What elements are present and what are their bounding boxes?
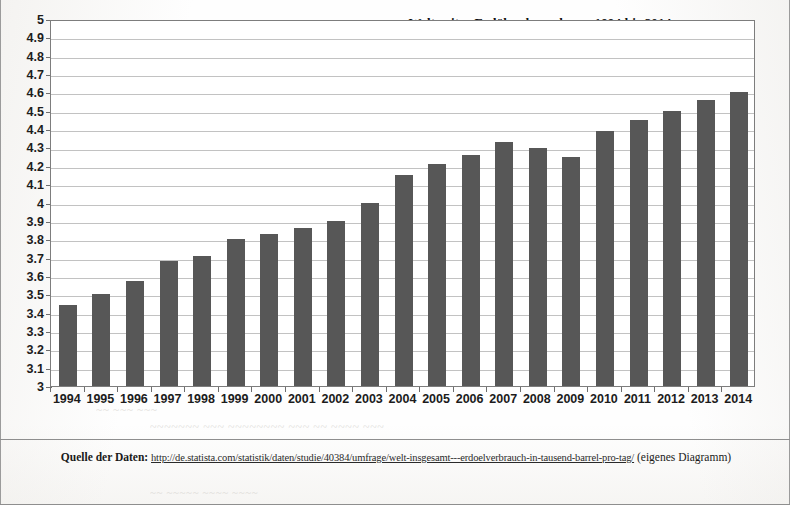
y-axis-tick-label: 4 [2,197,44,211]
y-axis-tick-label: 4.8 [2,50,44,64]
x-axis-tick-mark [386,387,387,392]
bar [193,256,211,386]
x-axis-tick-mark [654,387,655,392]
x-axis-tick-label: 1995 [84,392,118,406]
bar [294,228,312,386]
page-border-left [0,0,1,505]
bar [59,305,77,386]
bar [630,120,648,386]
y-axis-tick-label: 4.5 [2,105,44,119]
y-axis-tick-mark [46,387,52,388]
y-axis-tick-label: 3.7 [2,252,44,266]
x-axis-tick-mark [50,387,51,392]
x-axis-tick-label: 2001 [285,392,319,406]
x-axis-tick-label: 2010 [587,392,621,406]
x-axis-tick-mark [84,387,85,392]
x-axis-tick-mark [486,387,487,392]
bar [697,100,715,386]
bleedthrough-text-2: ~~~~~~~ ~~~ ~~~~~~~~ ~~~ ~~ ~~~~ ~~~ [150,420,384,435]
x-axis-tick-mark [151,387,152,392]
y-axis-tick-label: 3.8 [2,233,44,247]
x-axis-tick-label: 2008 [520,392,554,406]
y-axis-tick-label: 4.9 [2,31,44,45]
x-axis-tick-mark [184,387,185,392]
bar [529,148,547,387]
x-axis-tick-mark [285,387,286,392]
x-axis-tick-label: 1996 [117,392,151,406]
x-axis-tick-mark [554,387,555,392]
y-axis-tick-label: 4.7 [2,68,44,82]
x-axis-tick-mark [251,387,252,392]
bar [663,111,681,386]
bar [227,239,245,386]
x-axis-tick-mark [218,387,219,392]
bleedthrough-text-3: ~~ ~~~~~ ~~~~ ~~~~ [150,486,258,498]
y-axis-tick-label: 3.9 [2,215,44,229]
x-axis-tick-label: 1994 [50,392,84,406]
x-axis-tick-mark [621,387,622,392]
x-axis-tick-mark [419,387,420,392]
y-axis-tick-label: 4.6 [2,86,44,100]
bar [395,175,413,386]
source-url-link[interactable]: http://de.statista.com/statistik/daten/s… [151,452,634,463]
x-axis-tick-label: 2011 [621,392,655,406]
scanned-page: ~~ ~~~ ~~~ ~~~~~~~ ~~~ ~~~~~~~~ ~~~ ~~ ~… [0,0,790,505]
bar [428,164,446,386]
x-axis-tick-mark [352,387,353,392]
x-axis-tick-label: 2002 [319,392,353,406]
source-label: Quelle der Daten: [61,451,148,463]
bar [730,92,748,386]
bar-chart-plot-area [50,20,755,387]
x-axis-tick-mark [319,387,320,392]
x-axis-tick-mark [587,387,588,392]
x-axis-tick-label: 1998 [184,392,218,406]
bar-series [51,21,754,386]
x-axis-tick-label: 2012 [654,392,688,406]
x-axis-tick-mark [688,387,689,392]
x-axis-tick-mark [117,387,118,392]
bar [92,294,110,386]
bar [160,261,178,386]
bar [462,155,480,386]
x-axis-tick-label: 2000 [251,392,285,406]
x-axis-tick-label: 2009 [554,392,588,406]
y-axis-tick-label: 4.2 [2,160,44,174]
y-axis-tick-label: 3.6 [2,270,44,284]
x-axis-tick-label: 2003 [352,392,386,406]
bar [260,234,278,386]
y-axis-tick-label: 3 [2,380,44,394]
x-axis-tick-label: 2004 [386,392,420,406]
x-axis-tick-label: 2007 [486,392,520,406]
y-axis-tick-label: 4.4 [2,123,44,137]
x-axis-tick-label: 2006 [453,392,487,406]
y-axis-tick-label: 3.1 [2,362,44,376]
y-axis-tick-label: 5 [2,13,44,27]
bar [361,203,379,387]
y-axis-tick-label: 3.4 [2,307,44,321]
bar [596,131,614,386]
source-suffix: (eigenes Diagramm) [637,451,731,463]
y-axis-tick-label: 4.3 [2,141,44,155]
bar [327,221,345,386]
y-axis-tick-label: 4.1 [2,178,44,192]
y-axis-tick-label: 3.3 [2,325,44,339]
y-axis-tick-label: 3.2 [2,343,44,357]
x-axis-tick-label: 2005 [419,392,453,406]
x-axis-tick-label: 1999 [218,392,252,406]
x-axis-tick-label: 1997 [151,392,185,406]
x-axis-tick-label: 2014 [721,392,755,406]
bar [495,142,513,386]
y-axis-tick-label: 3.5 [2,288,44,302]
footer-divider-rule [0,439,790,440]
x-axis-tick-mark [721,387,722,392]
source-caption: Quelle der Daten: http://de.statista.com… [26,449,766,466]
bar [126,281,144,386]
x-axis-tick-mark [520,387,521,392]
bar [562,157,580,386]
x-axis-tick-mark [453,387,454,392]
x-axis-tick-label: 2013 [688,392,722,406]
